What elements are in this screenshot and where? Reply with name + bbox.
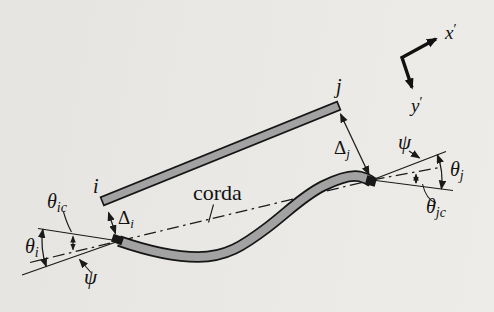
theta-i-arc xyxy=(42,229,46,266)
tangent-line-i xyxy=(38,229,119,242)
delta-i-arrow xyxy=(109,213,116,234)
y-axis-label: y′ xyxy=(409,95,423,116)
theta-i-label: θi xyxy=(25,235,39,260)
delta-j-label: Δj xyxy=(334,137,350,161)
psi-left-label: ψ xyxy=(84,265,98,289)
theta-j-label: θj xyxy=(450,158,464,183)
chord-label: corda xyxy=(193,180,242,205)
theta-ic-leader xyxy=(64,212,72,232)
delta-i-label: Δi xyxy=(118,207,134,231)
theta-ic-label: θic xyxy=(47,190,68,215)
diagram-svg: x′ y′ i j Δi Δj θi θic θj θjc ψ ψ corda xyxy=(0,0,494,312)
beam-rotation-diagram: x′ y′ i j Δi Δj θi θic θj θjc ψ ψ corda xyxy=(0,0,494,312)
node-i-label: i xyxy=(93,175,99,197)
chord-leader xyxy=(209,205,214,223)
deformed-member xyxy=(119,176,372,257)
member-axis-line-j xyxy=(372,152,446,181)
theta-j-arc xyxy=(437,155,442,189)
theta-jc-label: θjc xyxy=(426,195,447,220)
psi-right-label: ψ xyxy=(398,130,412,154)
node-j-label: j xyxy=(333,75,342,98)
x-axis-label: x′ xyxy=(444,22,457,43)
local-axes-arrows xyxy=(402,39,436,88)
